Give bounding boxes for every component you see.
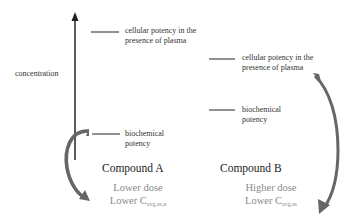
- compound-b-cellular-label-line2: presence of plasma: [242, 63, 313, 73]
- compound-b-biochemical-label: biochemical potency: [242, 105, 281, 125]
- compound-b-cavg-prefix: Lower C: [245, 195, 282, 206]
- axis-arrowhead-icon: [72, 12, 79, 21]
- compound-a-biochemical-label: biochemical potency: [125, 129, 164, 149]
- compound-a-dose: Lower dose: [98, 181, 178, 194]
- compound-b-cellular-label: cellular potency in the presence of plas…: [242, 53, 313, 73]
- compound-a-title: Compound A: [102, 162, 164, 174]
- compound-a-cavg: Lower Cavg,ss,u: [98, 194, 178, 211]
- compound-a-cellular-label-line1: cellular potency in the: [125, 26, 196, 36]
- compound-a-biochemical-label-line2: potency: [125, 139, 164, 149]
- compound-a-dose-block: Lower dose Lower Cavg,ss,u: [98, 181, 178, 211]
- compound-a-cavg-subscript: avg,ss,u: [147, 201, 166, 207]
- compound-a-biochemical-label-line1: biochemical: [125, 129, 164, 139]
- compound-b-cellular-label-line1: cellular potency in the: [242, 53, 313, 63]
- compound-b-cavg: Lower Cavg,ss: [236, 194, 306, 211]
- compound-a-cellular-label-line2: presence of plasma: [125, 36, 196, 46]
- compound-a-cellular-label: cellular potency in the presence of plas…: [125, 26, 196, 46]
- compound-b-title: Compound B: [220, 162, 282, 174]
- compound-b-biochemical-label-line1: biochemical: [242, 105, 281, 115]
- compound-b-biochemical-label-line2: potency: [242, 115, 281, 125]
- compound-a-curved-arrow-icon: [66, 129, 90, 201]
- compound-a-cavg-prefix: Lower C: [110, 195, 147, 206]
- compound-b-dose-block: Higher dose Lower Cavg,ss: [236, 181, 306, 211]
- concentration-axis-label: concentration: [15, 69, 59, 78]
- compound-b-curved-arrow-icon: [313, 73, 338, 214]
- compound-b-cavg-subscript: avg,ss: [282, 201, 297, 207]
- compound-b-dose: Higher dose: [236, 181, 306, 194]
